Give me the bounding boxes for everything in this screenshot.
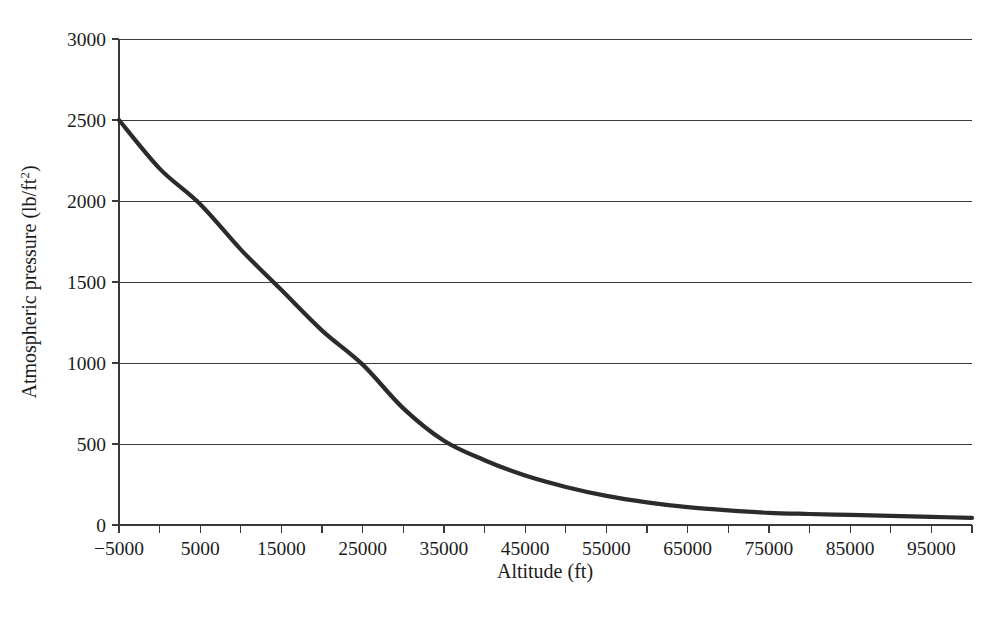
y-tick-label-1500: 1500 xyxy=(67,272,106,293)
x-tick-label-75000: 75000 xyxy=(745,538,794,559)
x-tick-label-15000: 15000 xyxy=(257,538,306,559)
x-tick-label-25000: 25000 xyxy=(338,538,387,559)
x-tick-label-55000: 55000 xyxy=(582,538,631,559)
x-tick-label-85000: 85000 xyxy=(826,538,875,559)
chart-figure: 050010001500200025003000 −50005000150002… xyxy=(0,0,1008,633)
y-tick-label-0: 0 xyxy=(96,515,106,536)
x-tick-label-45000: 45000 xyxy=(501,538,550,559)
x-axis-title: Altitude (ft) xyxy=(497,560,593,583)
y-tick-label-2500: 2500 xyxy=(67,110,106,131)
y-tick-label-500: 500 xyxy=(77,434,106,455)
y-tick-label-2000: 2000 xyxy=(67,191,106,212)
y-axis-title-close-paren: ) xyxy=(18,165,41,172)
y-axis-title: Atmospheric pressure (lb/ft2) xyxy=(17,165,41,398)
x-tick-label-35000: 35000 xyxy=(420,538,469,559)
y-axis-title-base: Atmospheric pressure (lb/ft xyxy=(18,178,41,398)
atmospheric-pressure-line-chart: 050010001500200025003000 −50005000150002… xyxy=(0,0,1008,633)
y-tick-label-3000: 3000 xyxy=(67,29,106,50)
y-tick-label-1000: 1000 xyxy=(67,353,106,374)
x-tick-label-95000: 95000 xyxy=(907,538,956,559)
x-tick-label--5000: −5000 xyxy=(94,538,144,559)
x-tick-label-65000: 65000 xyxy=(663,538,712,559)
x-tick-label-5000: 5000 xyxy=(181,538,220,559)
